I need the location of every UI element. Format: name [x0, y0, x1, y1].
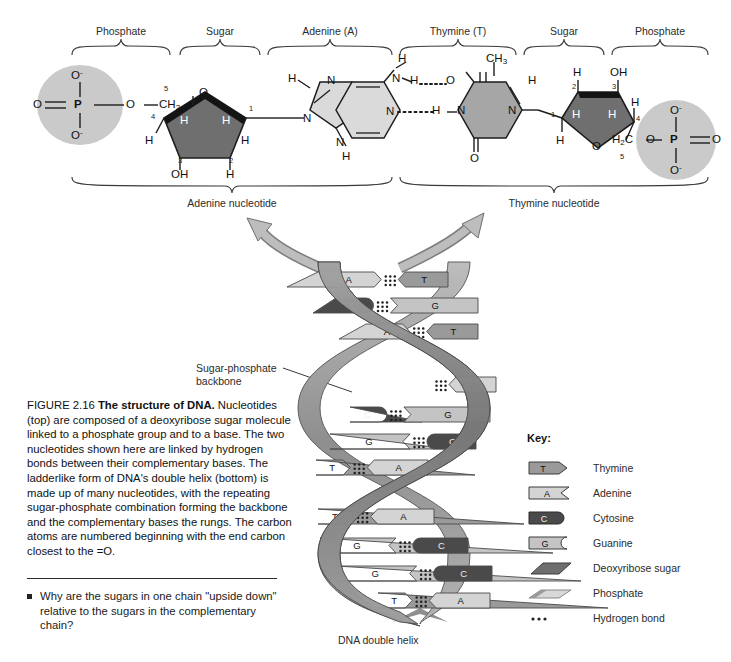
adenine-glyph: A — [527, 484, 579, 502]
hydrogen-bond-dot — [386, 301, 389, 304]
hydrogen-bond-dot — [404, 545, 407, 548]
hydrogen-bond-dot — [377, 310, 380, 313]
hydrogen-bond-dot — [444, 380, 447, 383]
hydrogen-bond-dot — [362, 463, 365, 466]
sugar-glyph — [527, 559, 579, 577]
phosphate-glyph — [527, 584, 579, 602]
hydrogen-bond-dot — [418, 441, 421, 444]
hydrogen-bond-dot — [422, 336, 425, 339]
hydrogen-bond-dot — [358, 467, 361, 470]
question-bullet-icon — [27, 594, 32, 599]
hydrogen-bond-dot — [362, 472, 365, 475]
sugar-glyph — [527, 559, 579, 577]
hydrogen-bond-dot — [357, 521, 360, 524]
hydrogen-bond-dot — [424, 569, 427, 572]
hydrogen-bond-dot — [362, 467, 365, 470]
hydrogen-bond-dot — [424, 578, 427, 581]
hydrogen-bond-dot — [386, 310, 389, 313]
hydrogen-bond-dot — [395, 414, 398, 417]
hydrogen-bond-dot — [389, 279, 392, 282]
base-letter: T — [391, 595, 397, 606]
guanine-glyph: G — [527, 534, 579, 552]
thymine-glyph: T — [527, 459, 579, 477]
dna-double-helix-label: DNA double helix — [338, 634, 419, 646]
base-letter: A — [400, 511, 407, 522]
base-letter: G — [365, 436, 372, 447]
hydrogen-bond-dot — [415, 605, 418, 608]
hydrogen-bond-dot — [444, 384, 447, 387]
hydrogen-bond-dot — [420, 596, 423, 599]
hydrogen-bond-dot — [358, 472, 361, 475]
hydrogen-bond-dot — [353, 472, 356, 475]
hydrogen-bond-dot — [399, 545, 402, 548]
hydrogen-bond-dot — [361, 516, 364, 519]
hydrogen-bond-dot — [420, 573, 423, 576]
hydrogen-bond-dot — [353, 467, 356, 470]
base-pair-rung: TA — [316, 460, 475, 475]
hydrogen-bond-dot — [420, 569, 423, 572]
hydrogen-bond-dot — [381, 310, 384, 313]
hydrogen-bond-dot — [422, 437, 425, 440]
hydrogen-bond-dot — [415, 600, 418, 603]
hydrogen-bond-dot — [358, 463, 361, 466]
key-item-thymine: TThymine — [527, 455, 727, 480]
key-item-hydrogen-bond: Hydrogen bond — [527, 605, 727, 630]
hydrogen-bond-dot — [408, 545, 411, 548]
key-rows: TThymineAAdenineCCytosineGGuanineDeoxyri… — [527, 455, 727, 630]
hydrogen-bond-dot — [366, 512, 369, 515]
hydrogen-bond-dot — [395, 410, 398, 413]
hydrogen-bond-dot — [404, 550, 407, 553]
base-letter: G — [432, 300, 439, 311]
hydrogen-bond-dot — [389, 275, 392, 278]
hydrogen-bond-dot — [422, 331, 425, 334]
key-item-label: Adenine — [593, 487, 632, 499]
hydrogen-bond-dot — [385, 284, 388, 287]
base-letter: G — [353, 540, 360, 551]
hydrogen-bond-dot — [353, 463, 356, 466]
key-item-label: Hydrogen bond — [593, 612, 665, 624]
key-item-label: Thymine — [593, 462, 633, 474]
hydrogen-bond-dot — [424, 600, 427, 603]
hydrogen-bond-dot — [413, 446, 416, 449]
hbond-glyph — [527, 609, 579, 627]
hydrogen-bond-dot — [366, 516, 369, 519]
hydrogen-bond-dot — [444, 389, 447, 392]
hydrogen-bond-dot — [435, 389, 438, 392]
hydrogen-bond-dot — [381, 305, 384, 308]
hydrogen-bond-dot — [413, 437, 416, 440]
figure-question: Why are the sugars in one chain "upside … — [40, 589, 288, 633]
base-letter: T — [329, 462, 335, 473]
hydrogen-bond-dot — [399, 541, 402, 544]
cytosine-glyph: C — [527, 509, 579, 527]
hydrogen-bond-dot — [429, 569, 432, 572]
backbone-label-line2: backbone — [196, 375, 277, 388]
hydrogen-bond-dot — [418, 446, 421, 449]
hydrogen-bond-dot — [399, 414, 402, 417]
hydrogen-bond-dot — [420, 605, 423, 608]
hydrogen-bond-dot — [413, 441, 416, 444]
key-item-deoxyribose-sugar: Deoxyribose sugar — [527, 555, 727, 580]
phosphate-glyph — [527, 584, 579, 602]
hydrogen-bond-dot — [394, 284, 397, 287]
hydrogen-bond-dot — [420, 600, 423, 603]
figure-title: The structure of DNA. — [98, 399, 215, 411]
hydrogen-bond-dot — [408, 550, 411, 553]
hydrogen-bond-dot — [435, 384, 438, 387]
key-title: Key: — [527, 432, 727, 444]
hydrogen-bond-dot — [440, 380, 443, 383]
key-item-cytosine: CCytosine — [527, 505, 727, 530]
key-item-phosphate: Phosphate — [527, 580, 727, 605]
hydrogen-bond-dot — [417, 327, 420, 330]
key-item-label: Deoxyribose sugar — [593, 562, 681, 574]
thymine-glyph: T — [527, 459, 579, 477]
hydrogen-bond-dot — [429, 573, 432, 576]
base-letter: G — [444, 409, 451, 420]
key-item-adenine: AAdenine — [527, 480, 727, 505]
hydrogen-bond-dot — [435, 380, 438, 383]
hydrogen-bond-dot — [418, 437, 421, 440]
hydrogen-bond-dot — [440, 384, 443, 387]
hydrogen-bond-dot — [429, 578, 432, 581]
hydrogen-bond-dot — [377, 301, 380, 304]
hydrogen-bond-dot — [424, 596, 427, 599]
hydrogen-bond-dot — [389, 284, 392, 287]
